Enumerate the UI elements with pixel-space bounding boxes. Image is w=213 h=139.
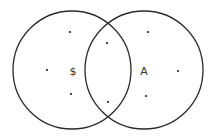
point-intersection <box>106 42 108 44</box>
data-points <box>46 31 179 103</box>
point-right-only <box>147 31 149 33</box>
point-left-only <box>46 69 48 71</box>
venn-diagram: $ A <box>0 0 213 139</box>
point-intersection <box>107 101 109 103</box>
point-right-only <box>177 70 179 72</box>
point-left-only <box>69 31 71 33</box>
point-right-only <box>145 95 147 97</box>
point-left-only <box>70 93 72 95</box>
set-label-right: A <box>140 65 148 78</box>
set-label-left: $ <box>70 65 77 78</box>
